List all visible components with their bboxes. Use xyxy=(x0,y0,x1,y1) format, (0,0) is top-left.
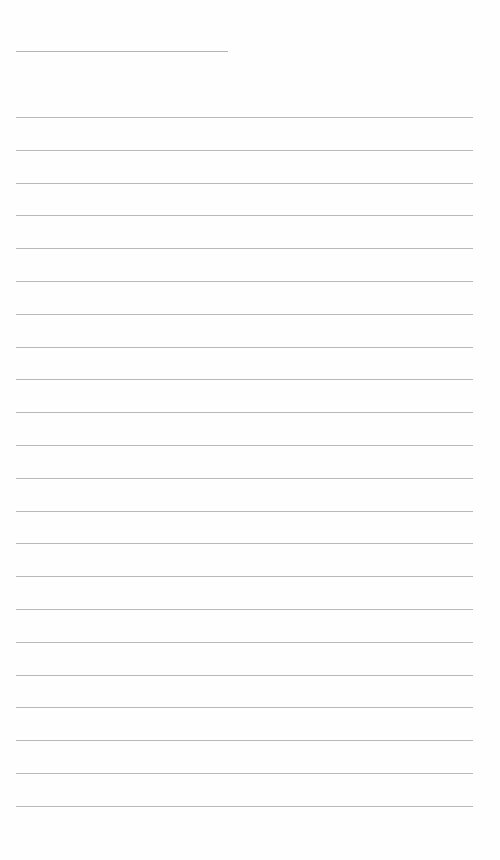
ruled-line[interactable] xyxy=(16,281,473,282)
ruled-line[interactable] xyxy=(16,412,473,413)
ruled-line[interactable] xyxy=(16,314,473,315)
ruled-line[interactable] xyxy=(16,707,473,708)
lined-paper-page xyxy=(0,0,500,860)
ruled-line[interactable] xyxy=(16,445,473,446)
ruled-line[interactable] xyxy=(16,117,473,118)
ruled-line[interactable] xyxy=(16,511,473,512)
ruled-line[interactable] xyxy=(16,642,473,643)
ruled-line[interactable] xyxy=(16,773,473,774)
ruled-line[interactable] xyxy=(16,576,473,577)
ruled-line[interactable] xyxy=(16,183,473,184)
ruled-line[interactable] xyxy=(16,379,473,380)
ruled-line[interactable] xyxy=(16,347,473,348)
ruled-line[interactable] xyxy=(16,740,473,741)
ruled-line[interactable] xyxy=(16,215,473,216)
title-line[interactable] xyxy=(16,51,228,52)
ruled-line[interactable] xyxy=(16,478,473,479)
ruled-line[interactable] xyxy=(16,150,473,151)
ruled-line[interactable] xyxy=(16,806,473,807)
ruled-line[interactable] xyxy=(16,609,473,610)
ruled-line[interactable] xyxy=(16,248,473,249)
ruled-line[interactable] xyxy=(16,543,473,544)
ruled-line[interactable] xyxy=(16,675,473,676)
